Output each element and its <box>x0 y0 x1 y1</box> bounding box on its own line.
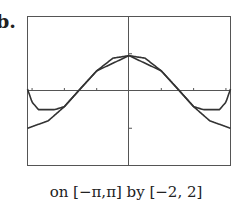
graph-window <box>0 0 240 208</box>
axes <box>27 16 231 166</box>
window-caption: on [−π,π] by [−2, 2] <box>0 183 240 201</box>
